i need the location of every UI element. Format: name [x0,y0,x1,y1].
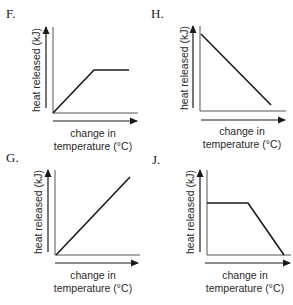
x-axis-label-line2: temperature (°C) [203,138,281,150]
panel-h: H. heat released (kJ) change in temperat… [151,6,286,150]
x-axis-label-line1: change in [219,125,265,137]
option-label-j: J. [152,152,160,167]
data-line [201,34,271,105]
y-axis-label: heat released (kJ) [30,28,42,112]
y-axis-label: heat released (kJ) [32,170,44,254]
answer-choices-figure: F. heat released (kJ) change in temperat… [0,0,293,305]
data-line [53,70,129,113]
option-label-h: H. [151,6,164,21]
x-axis-label-line1: change in [70,127,116,139]
y-axis-label: heat released (kJ) [178,26,190,110]
x-axis-label-line2: temperature (°C) [54,140,132,152]
y-axis-label: heat released (kJ) [184,170,196,254]
option-label-f: F. [6,6,15,21]
data-line [207,203,284,255]
panel-f: F. heat released (kJ) change in temperat… [6,6,138,152]
data-line [56,177,130,255]
option-label-g: G. [6,150,19,165]
panel-g: G. heat released (kJ) change in temperat… [6,150,140,294]
x-axis-label-line1: change in [70,269,116,281]
x-axis-label-line2: temperature (°C) [54,282,132,294]
x-axis-label-line2: temperature (°C) [206,282,284,294]
panel-j: J. heat released (kJ) change in temperat… [152,152,291,294]
x-axis-label-line1: change in [222,269,268,281]
